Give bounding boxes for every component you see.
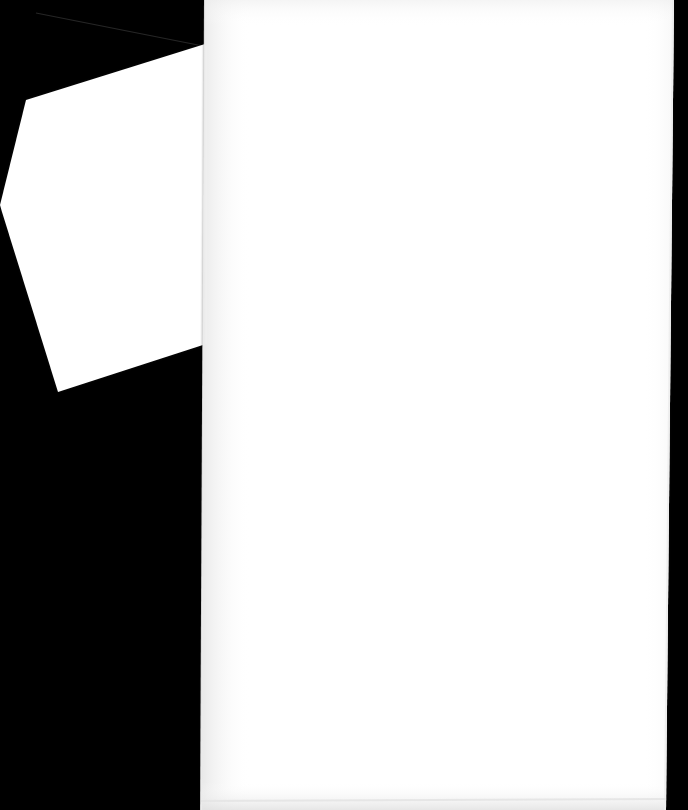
scanned-page-image <box>0 0 688 810</box>
scanned-document-viewport <box>0 0 688 810</box>
